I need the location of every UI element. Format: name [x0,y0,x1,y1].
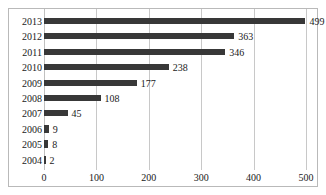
bar-value-label: 108 [105,91,120,106]
category-label: 2005 [9,137,42,152]
bar-row: 363 [44,29,306,44]
category-label: 2009 [9,76,42,91]
plot-area: 499 363 346 238 177 108 [44,14,306,168]
category-label: 2012 [9,29,42,44]
bar [44,95,101,101]
value-tick-label: 400 [234,172,274,183]
bar [44,80,137,86]
category-label: 2010 [9,60,42,75]
bar-row: 108 [44,91,306,106]
bar [44,110,68,116]
bar [44,125,49,133]
bar [44,64,169,70]
bar [44,140,48,148]
bar [44,18,305,24]
category-label: 2004 [9,153,42,168]
bar-value-label: 2 [50,153,55,168]
category-label: 2008 [9,91,42,106]
bar-row: 45 [44,106,306,121]
bar-value-label: 346 [229,45,244,60]
value-axis-labels: 0100200300400500 [9,172,319,188]
bar-value-label: 9 [53,122,58,137]
bar-row: 499 [44,14,306,29]
bar-value-label: 499 [309,14,324,29]
value-tick-label: 0 [24,172,64,183]
bar-value-label: 238 [173,60,188,75]
bar-row: 8 [44,137,306,152]
bar [44,33,234,39]
bar-row: 238 [44,60,306,75]
bar-series: 499 363 346 238 177 108 [44,14,306,168]
category-label: 2006 [9,122,42,137]
bar [44,49,225,55]
bar-chart-figure: 2013 2012 2011 2010 2009 2008 2007 2006 … [8,8,318,187]
value-tick-label: 200 [129,172,169,183]
category-axis-labels: 2013 2012 2011 2010 2009 2008 2007 2006 … [9,14,42,168]
category-label: 2007 [9,106,42,121]
bar-value-label: 8 [52,137,57,152]
value-tick-label: 500 [286,172,326,183]
bar-value-label: 177 [141,76,156,91]
bar-value-label: 45 [72,106,82,121]
gridline [306,9,307,170]
bar-row: 2 [44,153,306,168]
value-tick-label: 100 [76,172,116,183]
bar-row: 177 [44,76,306,91]
category-label: 2013 [9,14,42,29]
bar-row: 346 [44,45,306,60]
bar [44,156,46,164]
bar-row: 9 [44,122,306,137]
bar-value-label: 363 [238,29,253,44]
value-tick-label: 300 [181,172,221,183]
category-label: 2011 [9,45,42,60]
